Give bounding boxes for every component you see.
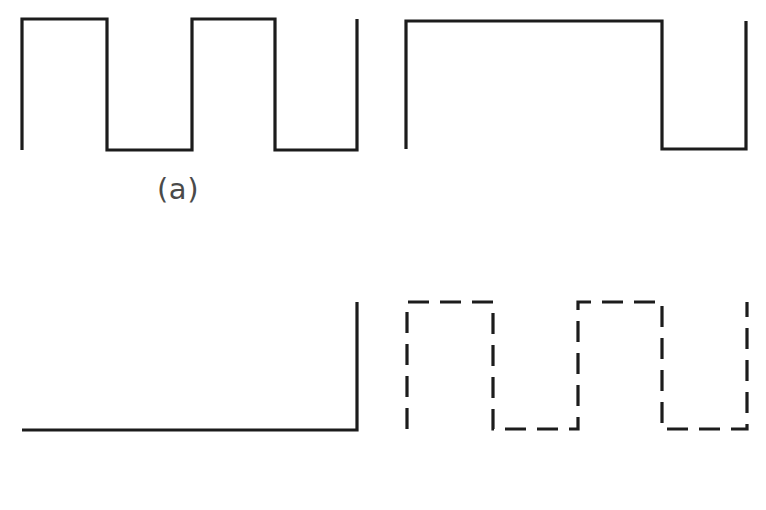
waveform-a-svg (0, 0, 383, 255)
waveform-d-path (407, 302, 747, 429)
panel-a-label: (a) (157, 172, 199, 206)
panel-a: (a) (0, 0, 383, 255)
waveform-a-path (22, 19, 357, 150)
panel-b: (b) (383, 0, 766, 255)
waveform-d-svg (383, 255, 766, 510)
waveform-c-svg (0, 255, 383, 510)
panel-d: (d) (383, 255, 766, 510)
panel-c: (c) (0, 255, 383, 510)
waveform-c-path (22, 302, 357, 430)
figure-canvas: (a) (b) (c) (d) (0, 0, 766, 510)
waveform-b-path (406, 21, 746, 149)
waveform-b-svg (383, 0, 766, 255)
